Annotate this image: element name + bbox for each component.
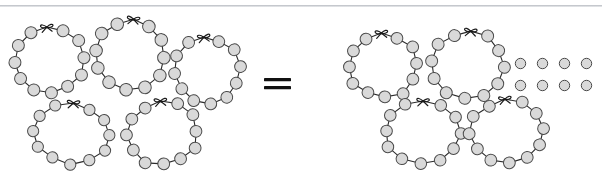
- bead: [220, 91, 233, 104]
- bead: [27, 125, 39, 137]
- bow-knot-icon: [67, 100, 80, 108]
- bead: [89, 44, 103, 58]
- bead: [49, 100, 61, 112]
- bead: [126, 113, 138, 125]
- bead: [428, 72, 441, 85]
- bead: [34, 110, 46, 122]
- loose-bead: [558, 57, 571, 70]
- bead: [384, 109, 396, 121]
- necklace-string: [467, 97, 546, 166]
- bead: [521, 151, 534, 164]
- loose-bead: [580, 57, 593, 70]
- bead: [174, 153, 186, 165]
- bead: [204, 97, 217, 110]
- bead: [64, 159, 76, 171]
- bead: [362, 86, 374, 98]
- bead: [98, 114, 110, 126]
- bead: [485, 154, 498, 167]
- bead: [83, 154, 95, 166]
- bead: [139, 102, 151, 114]
- bead: [103, 129, 115, 141]
- bead: [396, 153, 408, 165]
- bead: [120, 129, 132, 141]
- bead: [12, 39, 25, 52]
- bead: [434, 154, 446, 166]
- bead: [381, 125, 393, 137]
- left-equation-group: [0, 0, 255, 176]
- bead: [95, 27, 109, 41]
- bead: [481, 29, 494, 42]
- bead: [407, 73, 419, 85]
- bead: [425, 54, 438, 67]
- bead: [406, 41, 418, 53]
- loose-bead: [558, 79, 571, 92]
- loose-bead: [536, 57, 549, 70]
- bead: [153, 69, 167, 83]
- necklace-string: [31, 101, 110, 167]
- bead: [230, 77, 243, 90]
- loose-beads-group: [514, 52, 598, 96]
- worksheet-diagram: [0, 0, 602, 176]
- bead: [127, 144, 139, 156]
- bead-necklace: [116, 88, 208, 174]
- loose-bead: [514, 57, 527, 70]
- bead: [158, 158, 170, 170]
- bead: [391, 32, 403, 44]
- bead: [9, 56, 22, 69]
- bead-necklace: [459, 85, 555, 173]
- bead: [471, 143, 484, 156]
- bead: [212, 35, 225, 48]
- bead: [228, 43, 241, 56]
- bead: [360, 33, 372, 45]
- bead: [32, 141, 44, 153]
- bead: [72, 34, 85, 47]
- bead: [187, 108, 199, 120]
- bead: [25, 26, 38, 39]
- bead: [448, 29, 461, 42]
- bead: [84, 104, 96, 116]
- bow-knot-icon: [154, 98, 167, 106]
- loose-bead-row: [514, 52, 598, 74]
- bead: [139, 157, 151, 169]
- bead: [483, 100, 496, 113]
- bead: [343, 61, 355, 73]
- bead: [189, 142, 201, 154]
- bead: [448, 143, 460, 155]
- bead: [99, 145, 111, 157]
- bead: [382, 141, 394, 153]
- equals-sign: [262, 72, 294, 96]
- bead: [435, 99, 447, 111]
- bead: [347, 45, 359, 57]
- bead: [57, 24, 70, 37]
- loose-bead: [536, 79, 549, 92]
- bead: [492, 44, 505, 57]
- bead: [14, 72, 27, 85]
- bead: [110, 17, 124, 31]
- bead: [347, 77, 359, 89]
- bead: [171, 97, 183, 109]
- bead: [47, 152, 59, 164]
- bead: [450, 111, 462, 123]
- loose-bead: [580, 79, 593, 92]
- bead: [498, 61, 511, 74]
- bead: [530, 107, 543, 120]
- bead: [399, 98, 411, 110]
- bead: [190, 125, 202, 137]
- bead: [168, 67, 181, 80]
- bead: [516, 96, 529, 109]
- bead: [102, 75, 116, 89]
- bead-necklace: [375, 88, 470, 171]
- bead: [533, 138, 546, 151]
- bead-necklace: [24, 90, 120, 173]
- loose-bead: [514, 79, 527, 92]
- bead: [415, 158, 427, 170]
- loose-bead-row: [514, 74, 598, 96]
- bead: [467, 110, 480, 123]
- bead: [410, 57, 422, 69]
- bead: [234, 60, 247, 73]
- bead: [503, 157, 516, 170]
- bead: [432, 38, 445, 51]
- bead: [463, 127, 476, 140]
- bead: [537, 122, 550, 135]
- bead: [91, 61, 105, 75]
